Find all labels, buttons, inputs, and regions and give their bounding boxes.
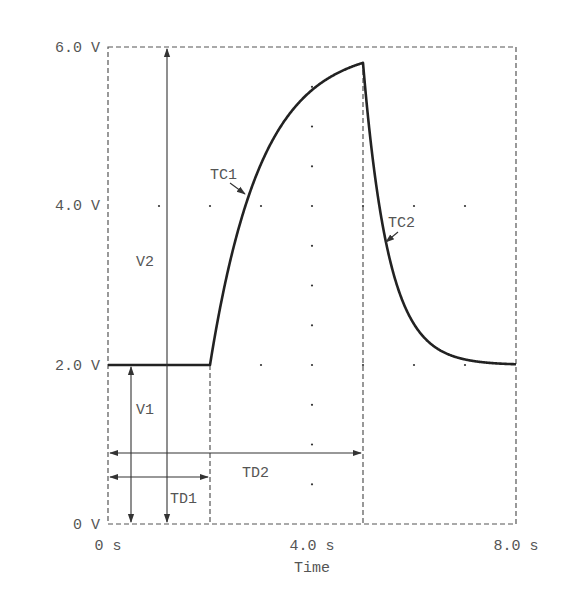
grid-dot	[311, 404, 313, 406]
grid-dot	[311, 125, 313, 127]
tc1-pointer-arrow	[230, 183, 245, 194]
y-tick-label-0v: 0 V	[73, 517, 100, 534]
td2-label: TD2	[242, 465, 269, 482]
grid-dot	[260, 205, 262, 207]
v2-label: V2	[136, 254, 154, 271]
grid-dot	[311, 245, 313, 247]
grid-dot	[209, 205, 211, 207]
x-tick-label-0s: 0 s	[94, 538, 121, 555]
waveform-curve	[108, 63, 516, 365]
tc2-label: TC2	[388, 215, 415, 232]
v1-label: V1	[136, 402, 154, 419]
grid-dot	[311, 483, 313, 485]
grid-dot	[311, 443, 313, 445]
grid-dot	[158, 205, 160, 207]
y-tick-label-4v: 4.0 V	[55, 198, 100, 215]
x-tick-label-4s: 4.0 s	[289, 538, 334, 555]
grid-dot	[413, 205, 415, 207]
exp-waveform-diagram: 6.0 V 4.0 V 2.0 V 0 V 0 s 4.0 s 8.0 s Ti…	[0, 0, 571, 602]
dot-grid	[158, 86, 466, 486]
grid-dot	[311, 86, 313, 88]
grid-dot	[311, 364, 313, 366]
y-tick-label-2v: 2.0 V	[55, 358, 100, 375]
td1-label: TD1	[170, 491, 197, 508]
x-axis-title: Time	[294, 560, 330, 577]
y-tick-label-6v: 6.0 V	[55, 40, 100, 57]
grid-dot	[464, 205, 466, 207]
grid-dot	[311, 165, 313, 167]
x-tick-label-8s: 8.0 s	[493, 538, 538, 555]
grid-dot	[311, 205, 313, 207]
grid-dot	[413, 364, 415, 366]
grid-dot	[260, 364, 262, 366]
grid-dot	[311, 324, 313, 326]
grid-dot	[362, 364, 364, 366]
tc1-label: TC1	[210, 167, 237, 184]
grid-dot	[464, 364, 466, 366]
grid-dot	[311, 284, 313, 286]
tc2-pointer-arrow	[386, 232, 398, 242]
